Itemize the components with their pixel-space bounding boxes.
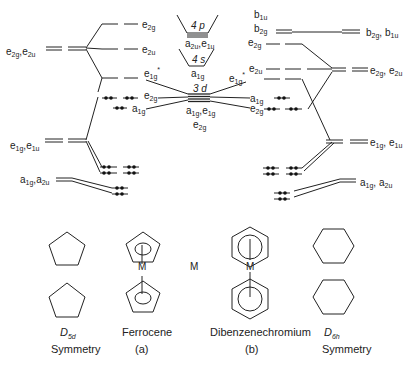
label-e2g-top-a: e2g (142, 19, 155, 32)
ferrocene-tag: (a) (135, 343, 148, 355)
label-e2g-e2u-right: e2g, e2u (370, 65, 402, 78)
label-a1g-e1g-metal: a1g,e1g (186, 105, 216, 118)
label-a1g-metal: a1g (191, 68, 204, 81)
label-e1g-star-a: e1g* (144, 66, 160, 81)
label-b2g-b: b2g (254, 23, 267, 36)
metal-label-b: M (246, 261, 254, 272)
cp-ring-bottom-left (49, 283, 85, 317)
metal-orbitals: 4 p a2u,e1u 4 s a1g 3 d a1g,e1g e2g (177, 15, 218, 132)
benzene-ring-top-right (313, 229, 354, 263)
ferrocene-caption: Ferrocene (122, 326, 172, 338)
dbc-caption: Dibenzenechromium (210, 326, 311, 338)
label-e2u-a: e2u (142, 44, 155, 56)
label-e2g-b: e2g (248, 37, 261, 50)
label-a2u-e1u-metal: a2u,e1u (185, 38, 215, 50)
label-e1g-e1u-left: e1g,e1u (10, 140, 40, 153)
ferrocene-ring-top (126, 232, 160, 262)
label-3d: 3 d (193, 83, 207, 94)
ferrocene-ring-bottom (126, 281, 160, 312)
d5d-caption: Symmetry (51, 343, 101, 355)
left-ligand-levels: e2g,e2u e1g,e1u a1g,a2u (6, 46, 86, 187)
dbc-tag: (b) (245, 343, 258, 355)
dbc-mo-levels: b1u b2g e2g e2u e1g* a1g e2g (229, 9, 342, 201)
ferrocene-structure (126, 232, 160, 312)
label-a1g-a2u-right: a1g, a2u (360, 177, 392, 190)
label-e2u-b: e2u (249, 63, 262, 75)
metal-label-a: M (138, 261, 146, 272)
label-e1g-e1u-right: e1g, e1u (370, 137, 402, 150)
benzene-ring-bottom-right (313, 280, 354, 314)
label-e1g-star-b: e1g* (229, 71, 245, 86)
mo-diagram: e2g,e2u e1g,e1u a1g,a2u e2g e2u e1g* e (0, 0, 412, 366)
label-e2g-e2u-left: e2g,e2u (6, 46, 36, 59)
dbc-structure (232, 227, 268, 319)
label-4s: 4 s (192, 54, 205, 65)
cp-ring-top-left (49, 232, 85, 265)
label-4p: 4 p (191, 20, 205, 31)
right-ligand-levels: b2g, b1u e2g, e2u e1g, e1u a1g, a2u (326, 27, 402, 190)
label-a1g-a2u-left: a1g,a2u (20, 174, 50, 187)
label-b2g-b1u-right: b2g, b1u (366, 27, 398, 40)
label-b1u-b: b1u (254, 9, 267, 21)
d6h-caption: Symmetry (322, 343, 372, 355)
label-a1g-a: a1g (132, 103, 145, 116)
d5d-label: D5d (60, 326, 77, 340)
d5d-structure (49, 232, 85, 317)
d6h-structure (313, 229, 354, 314)
label-e2g-metal: e2g (193, 119, 206, 132)
label-e2g-a: e2g (144, 90, 157, 103)
dbc-metal-lines (210, 82, 250, 108)
d6h-label: D6h (324, 326, 340, 340)
metal-label-center: M (190, 261, 198, 272)
